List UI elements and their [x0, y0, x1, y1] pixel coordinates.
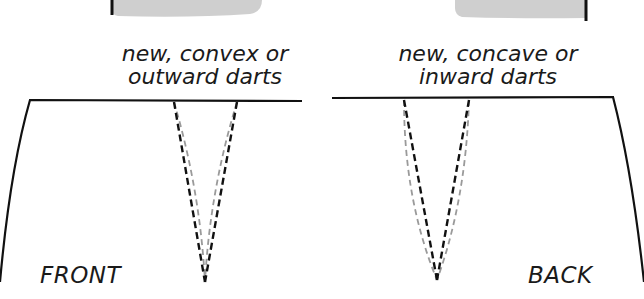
back-caption: new, concave or inward darts: [338, 42, 638, 88]
back-panel-outline: [332, 97, 644, 282]
front-caption: new, convex or outward darts: [55, 42, 355, 88]
back-caption-line2: inward darts: [338, 65, 638, 88]
back-original-dart: [404, 100, 469, 280]
back-label: BACK: [528, 262, 593, 288]
back-new-concave-dart: [404, 100, 469, 280]
previous-front-shape: [112, 0, 262, 17]
front-original-dart: [174, 102, 237, 282]
front-caption-line2: outward darts: [55, 65, 355, 88]
front-caption-line1: new, convex or: [55, 42, 355, 65]
front-panel-outline: [0, 100, 302, 282]
front-new-convex-dart: [174, 102, 237, 282]
previous-back-shape: [455, 0, 586, 21]
back-caption-line1: new, concave or: [338, 42, 638, 65]
front-label: FRONT: [40, 262, 121, 288]
